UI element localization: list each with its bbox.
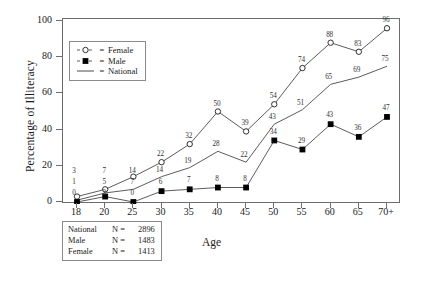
legend-equals: = xyxy=(97,45,107,56)
legend-equals: = xyxy=(97,66,107,77)
data-label-male: 6 xyxy=(159,178,163,186)
data-label-male: 8 xyxy=(243,175,247,183)
data-label-male: 0 xyxy=(131,189,135,197)
marker-filled-square xyxy=(159,188,165,194)
marker-filled-square xyxy=(300,147,306,153)
marker-filled-square xyxy=(74,199,80,204)
sample-size-name: National xyxy=(68,224,112,235)
y-tick-label: 20 xyxy=(24,159,52,170)
x-tick-label: 40 xyxy=(212,206,222,217)
data-label-national: 22 xyxy=(241,151,248,159)
data-label-female: 74 xyxy=(298,56,305,64)
sample-size-box: NationalN =2896MaleN =1483FemaleN =1413 xyxy=(62,221,162,261)
data-label-female: 22 xyxy=(157,150,164,158)
x-tick-label: 20 xyxy=(99,206,109,217)
data-label-national: 43 xyxy=(269,113,276,121)
sample-size-row: FemaleN =1413 xyxy=(68,246,155,257)
data-label-female: 14 xyxy=(129,167,136,175)
data-label-male: 36 xyxy=(354,124,361,132)
marker-open-circle xyxy=(243,129,248,134)
legend-equals: = xyxy=(97,56,107,67)
y-tick-label: 60 xyxy=(24,86,52,97)
data-label-male: 7 xyxy=(187,176,191,184)
legend-open-circle-icon xyxy=(75,45,97,55)
legend-item-female: =Female xyxy=(75,45,138,56)
marker-filled-square xyxy=(215,185,221,191)
marker-filled-square xyxy=(243,185,249,191)
y-tick-label: 40 xyxy=(24,123,52,134)
marker-open-circle xyxy=(215,109,220,114)
data-label-female: 88 xyxy=(326,31,333,39)
series-line-male xyxy=(77,117,387,202)
data-label-male: 0 xyxy=(72,189,76,197)
data-label-male: 34 xyxy=(270,128,277,136)
y-tick-label: 0 xyxy=(24,195,52,206)
legend-item-male: =Male xyxy=(75,56,138,67)
data-label-female: 32 xyxy=(185,132,192,140)
marker-open-circle xyxy=(159,159,164,164)
y-tick xyxy=(56,92,62,93)
y-tick xyxy=(56,129,62,130)
x-tick-label: 65 xyxy=(353,206,363,217)
x-tick-label: 50 xyxy=(268,206,278,217)
data-label-female: 50 xyxy=(213,100,220,108)
sample-size-value: 1413 xyxy=(138,246,155,257)
y-axis-title: Percentage of Illiteracy xyxy=(24,16,36,216)
y-tick xyxy=(56,20,62,21)
x-tick-label: 60 xyxy=(325,206,335,217)
data-label-male: 47 xyxy=(383,104,390,112)
data-label-national: 14 xyxy=(156,166,163,174)
data-label-national: 7 xyxy=(131,178,135,186)
data-label-female: 54 xyxy=(270,92,277,100)
sample-size-equals: N = xyxy=(112,246,138,257)
data-label-national: 19 xyxy=(184,157,191,165)
illiteracy-by-age-chart: Percentage of Illiteracy 020406080100 18… xyxy=(0,0,423,284)
data-label-national: 5 xyxy=(102,178,106,186)
data-label-male: 43 xyxy=(326,111,333,119)
x-tick-label: 30 xyxy=(156,206,166,217)
y-tick-label: 80 xyxy=(24,50,52,61)
marker-open-circle xyxy=(300,65,305,70)
sample-size-name: Female xyxy=(68,246,112,257)
marker-open-circle xyxy=(187,141,192,146)
marker-open-circle xyxy=(356,49,361,54)
data-label-female: 39 xyxy=(242,119,249,127)
data-label-female: 7 xyxy=(102,167,106,175)
data-label-male: 3 xyxy=(102,189,106,197)
marker-filled-square xyxy=(356,134,362,140)
sample-size-value: 1483 xyxy=(138,235,155,246)
legend-label: Female xyxy=(107,45,133,56)
marker-filled-square xyxy=(328,121,334,127)
legend: =Female=Male=National xyxy=(69,41,146,81)
series-line-national xyxy=(77,66,387,200)
data-label-female: 96 xyxy=(383,16,390,24)
marker-open-circle xyxy=(384,26,389,31)
y-tick xyxy=(56,165,62,166)
data-label-national: 51 xyxy=(297,99,304,107)
y-tick xyxy=(56,201,62,202)
data-label-national: 28 xyxy=(212,140,219,148)
legend-label: Male xyxy=(107,56,126,67)
x-tick-label: 25 xyxy=(127,206,137,217)
data-label-male: 8 xyxy=(215,175,219,183)
sample-size-name: Male xyxy=(68,235,112,246)
data-label-national: 69 xyxy=(353,66,360,74)
marker-open-circle xyxy=(328,40,333,45)
legend-item-national: =National xyxy=(75,66,138,77)
marker-filled-square xyxy=(130,199,136,204)
data-label-national: 75 xyxy=(382,55,389,63)
x-tick-label: 70+ xyxy=(378,206,394,217)
marker-filled-square xyxy=(271,138,277,144)
legend-label: National xyxy=(107,66,138,77)
data-label-national: 1 xyxy=(72,178,76,186)
marker-filled-square xyxy=(384,114,390,120)
marker-filled-square xyxy=(187,186,193,192)
x-tick-label: 18 xyxy=(71,206,81,217)
sample-size-row: NationalN =2896 xyxy=(68,224,155,235)
sample-size-value: 2896 xyxy=(138,224,155,235)
x-tick-label: 55 xyxy=(296,206,306,217)
data-label-national: 65 xyxy=(325,73,332,81)
y-tick xyxy=(56,56,62,57)
legend-line-icon xyxy=(75,66,97,76)
legend-filled-square-icon xyxy=(75,56,97,66)
